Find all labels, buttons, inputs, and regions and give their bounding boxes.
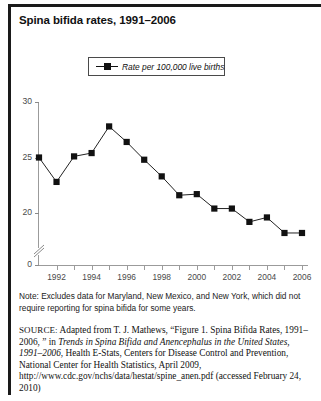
figure-note: Note: Excludes data for Maryland, New Me… [19, 291, 307, 314]
data-point-marker [106, 123, 112, 129]
series-markers [36, 123, 305, 236]
data-point-marker [71, 153, 77, 159]
data-point-marker [194, 191, 200, 197]
data-point-marker [89, 150, 95, 156]
frame-top-rule [8, 4, 321, 7]
data-point-marker [264, 214, 270, 220]
data-point-marker [53, 179, 59, 185]
legend-label: Rate per 100,000 live births [122, 62, 224, 72]
chart-legend: Rate per 100,000 live births [88, 57, 225, 76]
legend-line-square-marker-icon [96, 62, 118, 72]
data-series-svg [12, 92, 314, 282]
data-point-marker [176, 192, 182, 198]
data-point-marker [281, 230, 287, 236]
data-point-marker [159, 173, 165, 179]
source-label: SOURCE: [19, 325, 58, 335]
frame-left-rule [8, 4, 11, 395]
figure-source: SOURCE: Adapted from T. J. Mathews, “Fig… [19, 325, 309, 395]
data-point-marker [229, 205, 235, 211]
figure-panel: Spina bifida rates, 1991–2006 Rate per 1… [0, 0, 321, 401]
data-point-marker [299, 230, 305, 236]
data-point-marker [141, 157, 147, 163]
source-text-part2: , Health E-Stats, Centers for Disease Co… [19, 348, 301, 393]
data-point-marker [124, 139, 130, 145]
page-title: Spina bifida rates, 1991–2006 [19, 14, 176, 26]
series-line [39, 126, 302, 233]
data-point-marker [246, 219, 252, 225]
line-chart-plot-area: 0202530 19921994199619982000200220042006 [12, 92, 314, 282]
data-point-marker [36, 154, 42, 160]
data-point-marker [211, 205, 217, 211]
